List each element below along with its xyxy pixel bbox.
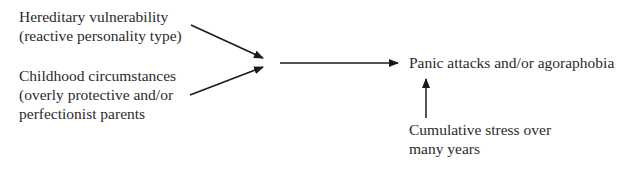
arrow-hereditary-to-junction	[191, 25, 263, 58]
arrows-layer	[0, 0, 633, 172]
arrow-childhood-to-junction	[190, 67, 263, 95]
